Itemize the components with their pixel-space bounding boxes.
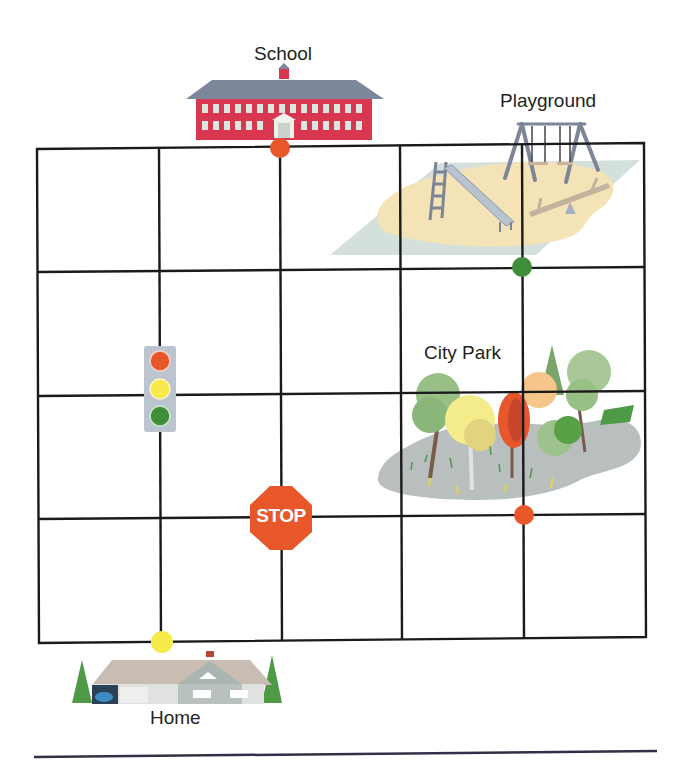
stop-sign-text: STOP: [250, 505, 312, 527]
home-illustration: [72, 651, 282, 704]
city-park-label: City Park: [424, 342, 501, 364]
school-illustration: [186, 63, 384, 140]
school-label: School: [254, 43, 312, 65]
map-canvas: [0, 0, 677, 768]
home-marker[interactable]: [151, 631, 173, 653]
school-marker[interactable]: [270, 138, 290, 158]
footer-rule: [34, 751, 657, 757]
home-label: Home: [150, 707, 201, 729]
city-park-illustration: [378, 345, 641, 500]
playground-label: Playground: [500, 90, 596, 112]
park-marker[interactable]: [514, 505, 534, 525]
traffic-light-icon: [144, 346, 176, 432]
playground-marker[interactable]: [512, 257, 532, 277]
